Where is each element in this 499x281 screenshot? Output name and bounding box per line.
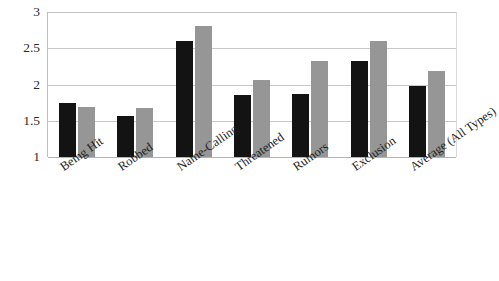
bar xyxy=(176,41,193,157)
plot-area xyxy=(47,12,457,157)
y-tick-label: 2.5 xyxy=(0,41,40,55)
bar xyxy=(351,61,368,157)
bars-layer xyxy=(48,12,456,157)
y-tick-label: 3 xyxy=(0,5,40,19)
y-tick-label: 1.5 xyxy=(0,114,40,128)
chart-title xyxy=(0,0,469,1)
y-axis: 32.521.51 xyxy=(0,12,42,157)
y-tick-label: 2 xyxy=(0,78,40,92)
bar xyxy=(234,95,251,157)
bar xyxy=(59,103,76,157)
bar xyxy=(292,94,309,157)
bar xyxy=(409,86,426,157)
x-axis: Being HitRobbedName-CallingThreatenedRum… xyxy=(0,157,469,281)
